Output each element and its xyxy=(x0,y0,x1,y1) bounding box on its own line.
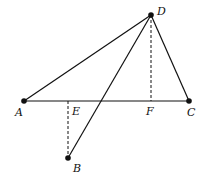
label-a: A xyxy=(14,106,23,119)
segment-ad xyxy=(24,15,151,101)
label-f: F xyxy=(145,105,154,118)
label-d: D xyxy=(156,5,166,18)
point-a xyxy=(21,98,27,104)
label-e: E xyxy=(71,105,80,118)
point-b xyxy=(65,155,71,161)
label-c: C xyxy=(187,106,196,119)
segment-dc xyxy=(151,15,189,101)
segment-db xyxy=(68,15,151,158)
points xyxy=(21,12,192,161)
segments xyxy=(24,15,189,158)
label-b: B xyxy=(72,162,81,175)
point-d xyxy=(148,12,154,18)
point-c xyxy=(186,98,192,104)
geometry-diagram: ABCDEF xyxy=(0,0,207,181)
